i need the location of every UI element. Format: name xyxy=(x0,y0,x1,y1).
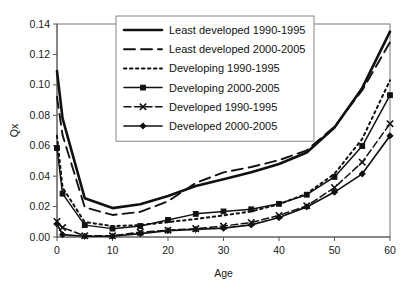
data-point-12 xyxy=(360,144,365,149)
y-tick-label-6: 0.12 xyxy=(30,48,51,60)
x-tick-label-6: 60 xyxy=(384,244,396,256)
data-point-3 xyxy=(110,226,115,231)
legend-marker xyxy=(141,85,146,90)
x-tick-label-4: 40 xyxy=(273,244,285,256)
data-point-1 xyxy=(60,191,65,196)
y-tick-label-4: 0.08 xyxy=(30,109,51,121)
data-point-10 xyxy=(304,192,309,197)
x-tick-label-2: 20 xyxy=(162,244,174,256)
y-tick-label-7: 0.14 xyxy=(30,18,51,30)
data-point-4 xyxy=(138,224,143,229)
data-point-11 xyxy=(332,175,337,180)
data-point-7 xyxy=(221,209,226,214)
legend-label-3: Developing 2000-2005 xyxy=(169,82,280,94)
legend-label-1: Least developed 2000-2005 xyxy=(169,43,305,55)
x-axis-title: Age xyxy=(214,267,233,279)
data-point-9 xyxy=(277,201,282,206)
legend-label-0: Least developed 1990-1995 xyxy=(169,24,305,36)
y-tick-label-3: 0.06 xyxy=(30,139,51,151)
y-tick-label-1: 0.02 xyxy=(30,200,51,212)
legend-label-2: Developing 1990-1995 xyxy=(169,62,280,74)
x-tick-label-0: 0 xyxy=(54,244,60,256)
data-point-0 xyxy=(55,146,60,151)
x-tick-label-1: 10 xyxy=(107,244,119,256)
y-tick-label-0: 0.00 xyxy=(30,231,51,243)
data-point-13 xyxy=(388,93,393,98)
chart-container: 0.000.020.040.060.080.100.120.1401020304… xyxy=(0,0,416,294)
x-tick-label-5: 50 xyxy=(329,244,341,256)
data-point-2 xyxy=(82,223,87,228)
line-chart: 0.000.020.040.060.080.100.120.1401020304… xyxy=(0,0,416,294)
y-axis-title: Qx xyxy=(8,123,20,137)
x-tick-label-3: 30 xyxy=(218,244,230,256)
legend-label-5: Developed 2000-2005 xyxy=(169,120,277,132)
data-point-6 xyxy=(193,211,198,216)
data-point-8 xyxy=(249,207,254,212)
data-point-5 xyxy=(166,218,171,223)
y-tick-label-5: 0.10 xyxy=(30,78,51,90)
legend-label-4: Developed 1990-1995 xyxy=(169,101,277,113)
y-tick-label-2: 0.04 xyxy=(30,170,51,182)
chart-legend: Least developed 1990-1995Least developed… xyxy=(116,16,314,141)
